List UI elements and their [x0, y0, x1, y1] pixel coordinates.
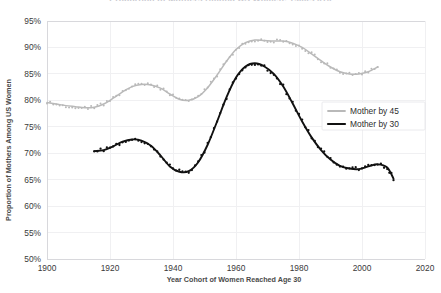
x-tick-label: 2020 — [416, 263, 435, 273]
y-tick-label: 70% — [24, 148, 41, 158]
line-chart: 50%55%60%65%70%75%80%85%90%95% 190019201… — [0, 0, 441, 293]
y-tick-label: 60% — [24, 201, 41, 211]
chart-legend[interactable]: Mother by 45Mother by 30 — [322, 102, 425, 130]
y-tick-label: 95% — [24, 16, 41, 26]
x-tick-label: 1960 — [227, 263, 246, 273]
x-tick-label: 1920 — [101, 263, 120, 273]
x-tick-label: 1900 — [38, 263, 57, 273]
y-tick-label: 55% — [24, 228, 41, 238]
x-tick-label: 1940 — [164, 263, 183, 273]
legend-label-2[interactable]: Mother by 30 — [350, 119, 399, 129]
chart-background — [0, 0, 441, 293]
y-axis-title: Proportion of Mothers Among US Women — [4, 79, 13, 221]
y-tick-label: 90% — [24, 42, 41, 52]
data-point — [99, 147, 101, 149]
data-point — [355, 166, 357, 168]
y-tick-label: 85% — [24, 69, 41, 79]
data-point — [65, 106, 67, 108]
x-tick-label: 2000 — [353, 263, 372, 273]
data-point — [90, 105, 92, 107]
x-tick-label: 1980 — [290, 263, 309, 273]
data-point — [276, 38, 278, 40]
y-tick-label: 80% — [24, 95, 41, 105]
chart-container: Proportion of Mothers Among US Women, 19… — [0, 0, 441, 293]
y-tick-label: 65% — [24, 175, 41, 185]
chart-title-clipped: Proportion of Mothers Among US Women, 19… — [0, 0, 441, 1]
x-axis-title: Year Cohort of Women Reached Age 30 — [167, 275, 302, 284]
y-tick-label: 75% — [24, 122, 41, 132]
legend-label-1[interactable]: Mother by 45 — [350, 106, 399, 116]
